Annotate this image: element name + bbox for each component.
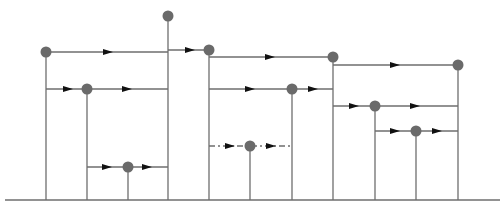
nodes bbox=[41, 11, 464, 173]
diagram-svg bbox=[0, 0, 502, 205]
node-n1 bbox=[41, 47, 52, 58]
node-n11 bbox=[453, 60, 464, 71]
arrow-right-icon bbox=[63, 86, 73, 92]
node-n3 bbox=[123, 162, 134, 173]
vertical-stems bbox=[46, 16, 458, 200]
arrow-right-icon bbox=[432, 128, 442, 134]
node-n9 bbox=[370, 101, 381, 112]
node-n8 bbox=[328, 52, 339, 63]
arrow-right-icon bbox=[225, 143, 235, 149]
node-n2 bbox=[82, 84, 93, 95]
arrow-right-icon bbox=[266, 143, 276, 149]
arrow-right-icon bbox=[185, 47, 195, 53]
arrow-right-icon bbox=[122, 86, 132, 92]
node-n7 bbox=[287, 84, 298, 95]
node-n4 bbox=[163, 11, 174, 22]
arrow-right-icon bbox=[349, 103, 359, 109]
node-n5 bbox=[204, 45, 215, 56]
arrow-right-icon bbox=[390, 128, 400, 134]
arrow-right-icon bbox=[102, 164, 112, 170]
arrow-right-icon bbox=[390, 62, 400, 68]
arrow-right-icon bbox=[410, 103, 420, 109]
node-n10 bbox=[411, 126, 422, 137]
node-n6 bbox=[245, 141, 256, 152]
arrow-right-icon bbox=[142, 164, 152, 170]
arrow-right-icon bbox=[308, 86, 318, 92]
arrow-right-icon bbox=[103, 49, 113, 55]
arrow-right-icon bbox=[265, 54, 275, 60]
tree-diagram bbox=[0, 0, 502, 205]
arrow-right-icon bbox=[245, 86, 255, 92]
